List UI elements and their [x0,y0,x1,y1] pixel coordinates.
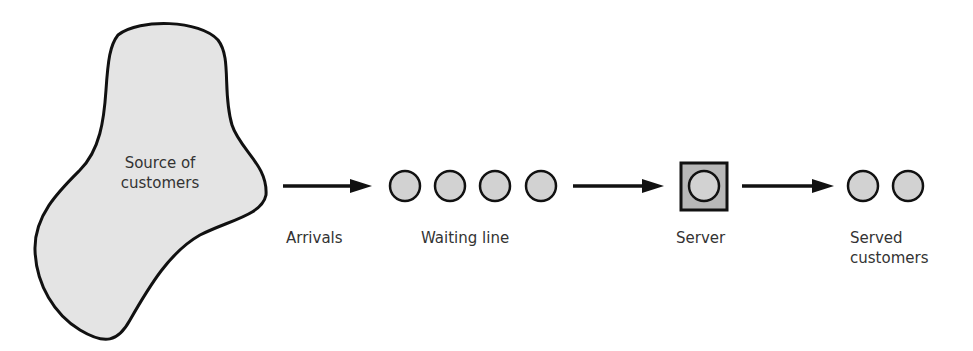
source-label-line1: Source of [112,153,208,173]
to-server-arrow [573,179,664,193]
source-label: Source of customers [112,153,208,193]
waiting-line-customers [390,171,556,201]
server-label: Server [676,228,725,248]
arrivals-label: Arrivals [286,228,343,248]
waiting-line-label: Waiting line [421,228,509,248]
to-served-arrow [742,179,834,193]
served-label-line2: customers [850,248,928,268]
server-box [681,163,727,210]
served-label-line1: Served [850,228,928,248]
served-label: Served customers [850,228,928,268]
served-customers [848,171,923,201]
source-label-line2: customers [112,173,208,193]
arrivals-arrow [283,179,372,193]
